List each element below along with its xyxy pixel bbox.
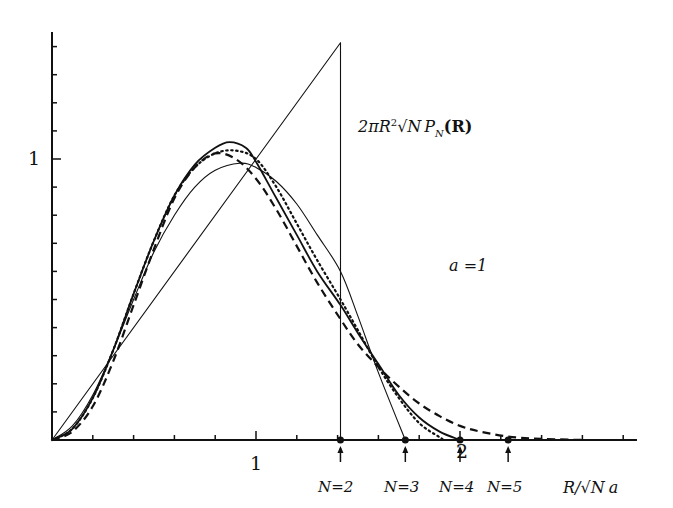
y-axis-label-sub: N <box>435 128 444 139</box>
marker-label-n2: N=2 <box>318 478 353 496</box>
x-axis-label-root: √N <box>580 478 604 497</box>
y-axis-label-arg: (R) <box>444 117 472 136</box>
y-tick-label-1: 1 <box>28 147 40 169</box>
y-axis-label-prefix: 2πR <box>358 117 391 136</box>
y-axis-label-root: √N <box>397 117 421 136</box>
arrow-head-icon <box>505 446 511 453</box>
x-tick-label-2: 2 <box>456 440 468 462</box>
cutoff-dot <box>402 437 409 444</box>
series-n-3 <box>52 163 405 440</box>
series-dashed <box>52 153 582 440</box>
series-n-4 <box>52 142 460 440</box>
y-axis-label-p: P <box>424 117 435 136</box>
x-tick-label-1: 1 <box>250 452 262 474</box>
series-n-2 <box>52 43 341 440</box>
x-axis-label-a: a <box>609 478 619 497</box>
x-axis-label-num: R/ <box>563 478 580 497</box>
annotation-a: a =1 <box>449 256 487 275</box>
marker-label-n5: N=5 <box>487 478 522 496</box>
arrow-head-icon <box>402 446 408 453</box>
series-dotted <box>52 150 444 440</box>
arrow-head-icon <box>337 446 343 453</box>
chart-canvas <box>0 0 673 508</box>
x-axis-label: R/√Na <box>563 478 618 497</box>
series-layer <box>52 43 582 440</box>
cutoff-dot <box>505 437 512 444</box>
cutoff-dot <box>337 437 344 444</box>
marker-label-n4: N=4 <box>439 478 474 496</box>
marker-label-n3: N=3 <box>384 478 419 496</box>
y-axis-label: 2πR2√NPN(R) <box>358 117 472 139</box>
axes <box>52 32 637 440</box>
